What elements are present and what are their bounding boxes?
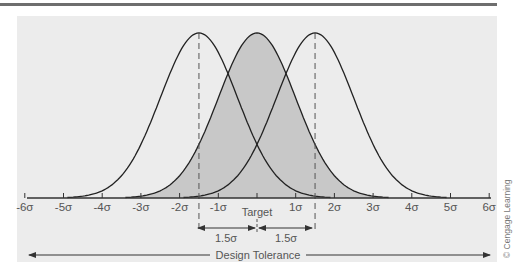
axis-tick-label: -6σ [16, 201, 33, 213]
shift-left-label: 1.5σ [215, 232, 237, 244]
design-tolerance-label: Design Tolerance [216, 249, 301, 261]
axis-tick-label: 6σ [482, 201, 496, 213]
axis-tick-label: -4σ [94, 201, 111, 213]
shift-right-label: 1.5σ [275, 232, 297, 244]
axis-tick-label: -1σ [210, 201, 227, 213]
copyright-credit: © Cengage Learning [502, 179, 512, 258]
shaded-area [125, 33, 388, 198]
axis-tick-label: 3σ [366, 201, 380, 213]
axis-tick-label: 5σ [444, 201, 458, 213]
axis-tick-label: -2σ [171, 201, 188, 213]
axis-tick-label: -3σ [132, 201, 149, 213]
axis-tick-label: 1σ [289, 201, 303, 213]
centered-curve-shading [125, 33, 388, 198]
axis-tick-label: 2σ [328, 201, 342, 213]
axis-tick-label: -5σ [55, 201, 72, 213]
target-label: Target [242, 206, 273, 218]
normal-curves-diagram: -6σ-5σ-4σ-3σ-2σ-1σ1σ2σ3σ4σ5σ6σ Target 1.… [0, 0, 522, 277]
axis-tick-label: 4σ [405, 201, 419, 213]
